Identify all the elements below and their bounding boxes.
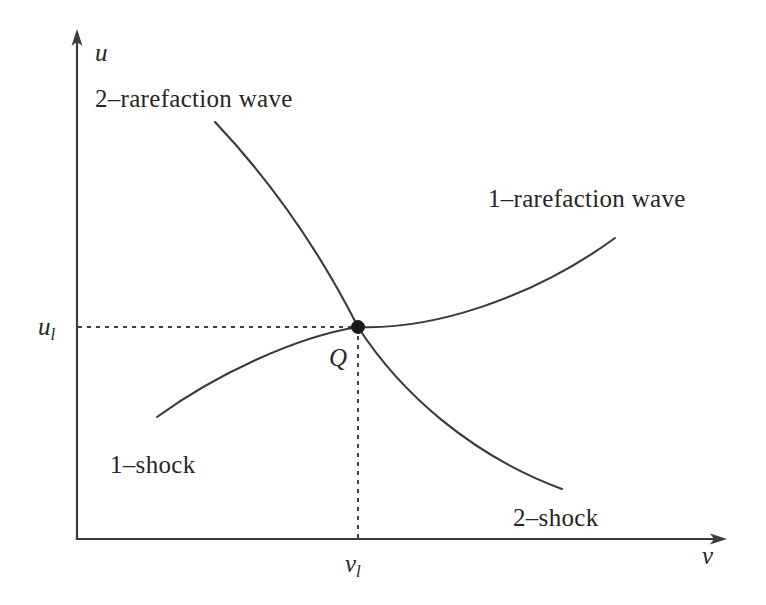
curve-1-shock [157, 327, 358, 417]
point-Q-marker [352, 321, 365, 334]
x-axis-tick-label-vl: vl [345, 551, 361, 580]
tick-base-u: u [38, 313, 51, 340]
curve-2-shock [358, 327, 562, 489]
tick-base-v: v [345, 550, 356, 577]
x-axis [77, 534, 727, 545]
point-Q-label: Q [329, 345, 347, 370]
tick-subscript-l: l [356, 562, 361, 581]
y-axis-label: u [95, 40, 108, 65]
curve-2-rarefaction-wave [215, 122, 358, 327]
y-axis [72, 29, 83, 539]
label-2-rarefaction-wave: 2–rarefaction wave [95, 86, 293, 111]
x-axis-label: v [702, 543, 713, 568]
figure-canvas: 2–rarefaction wave 1–rarefaction wave 1–… [0, 0, 766, 605]
label-1-shock: 1–shock [110, 452, 195, 477]
y-axis-tick-label-ul: ul [38, 314, 55, 343]
tick-subscript-l: l [51, 325, 56, 344]
curve-1-rarefaction-wave [358, 238, 615, 327]
label-2-shock: 2–shock [513, 505, 598, 530]
label-1-rarefaction-wave: 1–rarefaction wave [488, 186, 686, 211]
